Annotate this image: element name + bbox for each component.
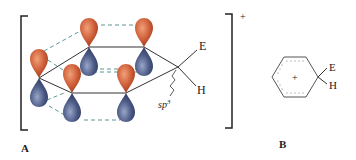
panel-label-b: B xyxy=(279,138,287,150)
ring-bonds xyxy=(39,47,178,93)
b-substituent-bonds xyxy=(318,68,327,84)
ring-charge: + xyxy=(292,72,298,83)
delocalized-dots xyxy=(277,60,303,93)
left-bracket xyxy=(21,16,28,130)
panel-a: E H sp3 + A xyxy=(21,11,246,154)
p-orbital-1 xyxy=(30,49,48,107)
right-bracket xyxy=(225,14,232,128)
arenium-ion-diagram: E H sp3 + A + E H B xyxy=(0,0,356,160)
p-orbital-3 xyxy=(135,18,153,47)
substituent-h-a: H xyxy=(197,83,206,97)
panel-b: + E H B xyxy=(272,57,337,150)
substituent-h-b: H xyxy=(329,79,337,91)
p-orbital-2 xyxy=(80,18,98,47)
sp3-bonds xyxy=(170,50,197,96)
substituent-e-b: E xyxy=(329,61,336,73)
panel-label-a: A xyxy=(21,142,29,154)
charge-sign: + xyxy=(240,11,246,22)
substituent-e-a: E xyxy=(199,39,206,53)
sp3-pointer xyxy=(170,70,176,96)
hybridization-label: sp3 xyxy=(158,98,171,110)
